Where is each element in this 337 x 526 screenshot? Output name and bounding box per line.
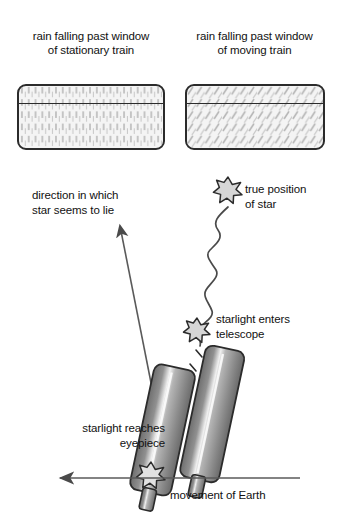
- label-apparent-direction-line2: star seems to lie: [32, 203, 118, 218]
- diagram-canvas: rain falling past window of stationary t…: [0, 0, 337, 526]
- label-starlight-eyepiece-line2: eyepiece: [40, 436, 165, 451]
- rain-vertical-pattern: [19, 86, 163, 148]
- label-starlight-eyepiece-line1: starlight reaches: [40, 421, 165, 436]
- window-sill-line: [187, 103, 323, 104]
- window-sill-line: [19, 103, 163, 104]
- caption-moving-line1: rain falling past window: [182, 29, 327, 43]
- caption-moving-train: rain falling past window of moving train: [182, 29, 327, 57]
- label-starlight-enters-line1: starlight enters: [216, 312, 290, 327]
- label-true-position-line2: of star: [245, 197, 306, 212]
- label-movement-of-earth-text: movement of Earth: [170, 488, 265, 503]
- caption-stationary-train: rain falling past window of stationary t…: [12, 29, 170, 57]
- caption-stationary-line2: of stationary train: [12, 43, 170, 57]
- label-starlight-eyepiece: starlight reaches eyepiece: [40, 421, 165, 451]
- window-moving-train: [185, 84, 325, 150]
- label-starlight-enters-line2: telescope: [216, 327, 290, 342]
- label-apparent-direction: direction in which star seems to lie: [32, 188, 118, 218]
- label-apparent-direction-line1: direction in which: [32, 188, 118, 203]
- label-movement-of-earth: movement of Earth: [170, 488, 265, 503]
- caption-moving-line2: of moving train: [182, 43, 327, 57]
- rain-slanted-pattern: [187, 86, 323, 148]
- label-true-position-line1: true position: [245, 182, 306, 197]
- caption-stationary-line1: rain falling past window: [12, 29, 170, 43]
- star-burst-icon: [213, 177, 242, 203]
- window-stationary-train: [17, 84, 165, 150]
- label-true-position: true position of star: [245, 182, 306, 212]
- label-starlight-enters: starlight enters telescope: [216, 312, 290, 342]
